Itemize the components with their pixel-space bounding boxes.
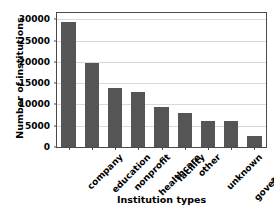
bar bbox=[201, 121, 215, 147]
bar bbox=[247, 136, 261, 147]
bar bbox=[108, 88, 122, 147]
y-axis-tick-label: 5000 bbox=[7, 121, 55, 131]
y-axis-tick-mark bbox=[54, 19, 57, 20]
y-axis-tick-mark bbox=[54, 147, 57, 148]
y-axis-tick-label: 20000 bbox=[7, 57, 55, 67]
x-axis-tick-label: archive bbox=[268, 152, 274, 185]
x-axis-tick-mark bbox=[185, 147, 186, 150]
x-axis-tick-mark bbox=[208, 147, 209, 150]
y-axis-tick-label: 15000 bbox=[7, 78, 55, 88]
plot-area: 050001000015000200002500030000 bbox=[56, 12, 267, 148]
bar bbox=[178, 113, 192, 147]
x-axis-tick-mark bbox=[231, 147, 232, 150]
x-axis-tick-mark bbox=[162, 147, 163, 150]
y-axis-tick-mark bbox=[54, 104, 57, 105]
x-axis-tick-mark bbox=[92, 147, 93, 150]
bars-layer bbox=[57, 13, 266, 147]
bar bbox=[154, 107, 168, 147]
x-axis-tick-mark bbox=[115, 147, 116, 150]
bar bbox=[131, 92, 145, 147]
y-axis-tick-mark bbox=[54, 61, 57, 62]
y-axis-tick-label: 25000 bbox=[7, 36, 55, 46]
y-axis-tick-label: 0 bbox=[7, 142, 55, 152]
bar bbox=[85, 63, 99, 147]
y-axis-tick-mark bbox=[54, 125, 57, 126]
bar bbox=[224, 121, 238, 147]
bar-chart-figure: Number of institutions 05000100001500020… bbox=[0, 0, 274, 212]
y-axis-tick-label: 10000 bbox=[7, 99, 55, 109]
y-axis-tick-label: 30000 bbox=[7, 14, 55, 24]
x-axis-tick-mark bbox=[69, 147, 70, 150]
x-axis-tick-mark bbox=[138, 147, 139, 150]
x-axis-tick-mark bbox=[254, 147, 255, 150]
y-axis-tick-mark bbox=[54, 83, 57, 84]
bar bbox=[61, 22, 75, 147]
x-axis-tick-label: unknown bbox=[224, 152, 264, 192]
y-axis-tick-mark bbox=[54, 40, 57, 41]
